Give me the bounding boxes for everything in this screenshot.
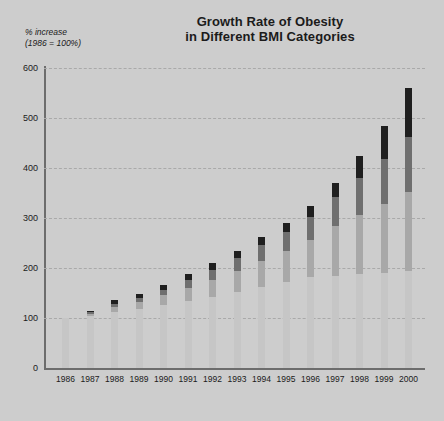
bar-segment-bmi-35-40 (234, 271, 241, 292)
bar-segment-bmi-40-45 (283, 232, 290, 251)
bar-segment-bmi-45- (234, 251, 241, 259)
y-tick-label-600: 600 (8, 64, 38, 73)
bar-segment-bmi-30-35 (136, 309, 143, 368)
bar-segment-bmi-45- (258, 237, 265, 245)
bar-segment-bmi-35-40 (356, 215, 363, 274)
bar-segment-bmi-30-35 (160, 305, 167, 368)
bar-segment-bmi-35-40 (307, 240, 314, 277)
bar-segment-bmi-30-35 (209, 297, 216, 369)
bar-1993 (234, 251, 241, 369)
bar-1988 (111, 300, 118, 369)
bar-segment-bmi-40-45 (307, 217, 314, 240)
y-tick-label-500: 500 (8, 114, 38, 123)
bar-segment-bmi-40-45 (405, 137, 412, 192)
bar-segment-bmi-35-40 (283, 251, 290, 282)
bar-segment-bmi-40-45 (332, 197, 339, 226)
bar-1998 (356, 156, 363, 369)
bar-1996 (307, 206, 314, 368)
chart-title: Growth Rate of Obesity in Different BMI … (150, 14, 390, 44)
y-axis-caption-line-2: (1986 = 100%) (25, 38, 81, 49)
bar-segment-bmi-30-35 (405, 271, 412, 369)
bar-segment-bmi-35-40 (185, 288, 192, 301)
y-axis-caption-line-1: % increase (25, 27, 81, 38)
bar-segment-bmi-30-35 (307, 277, 314, 368)
bar-segment-bmi-30-35 (87, 316, 94, 369)
bar-1989 (136, 294, 143, 369)
bar-segment-bmi-35-40 (405, 192, 412, 271)
bar-segment-bmi-40-45 (356, 178, 363, 216)
bar-segment-bmi-30-35 (332, 276, 339, 369)
bar-segment-bmi-40-45 (234, 258, 241, 271)
x-axis-line (44, 368, 425, 370)
bar-segment-bmi-30-35 (234, 292, 241, 368)
bar-segment-bmi-35-40 (136, 302, 143, 309)
bar-1990 (160, 285, 167, 368)
gridline-500 (44, 118, 425, 119)
chart-title-line-1: Growth Rate of Obesity (150, 14, 390, 29)
bar-segment-bmi-40-45 (209, 270, 216, 280)
y-tick-label-300: 300 (8, 214, 38, 223)
bar-segment-bmi-35-40 (160, 295, 167, 305)
bar-segment-bmi-45- (405, 88, 412, 137)
bar-1995 (283, 223, 290, 368)
bar-segment-bmi-35-40 (381, 204, 388, 273)
bar-1987 (87, 311, 94, 369)
bar-1997 (332, 183, 339, 368)
bar-segment-bmi-30-35 (62, 318, 69, 368)
bar-1992 (209, 263, 216, 368)
bar-2000 (405, 88, 412, 368)
x-tick-label-2000: 2000 (392, 374, 426, 384)
plot-area (44, 68, 425, 368)
gridline-300 (44, 218, 425, 219)
y-tick-label-200: 200 (8, 264, 38, 273)
bar-segment-bmi-35-40 (209, 280, 216, 297)
bar-segment-bmi-30-35 (381, 273, 388, 369)
bar-1991 (185, 274, 192, 368)
bar-segment-bmi-35-40 (258, 261, 265, 287)
chart-title-line-2: in Different BMI Categories (150, 29, 390, 44)
bar-segment-bmi-35-40 (332, 226, 339, 276)
bar-1999 (381, 126, 388, 369)
bar-1986 (62, 318, 69, 368)
bar-segment-bmi-30-35 (185, 301, 192, 368)
bar-segment-bmi-45- (332, 183, 339, 197)
bar-segment-bmi-40-45 (258, 245, 265, 261)
y-tick-label-100: 100 (8, 314, 38, 323)
bar-segment-bmi-45- (307, 206, 314, 217)
bar-segment-bmi-45- (381, 126, 388, 159)
bar-segment-bmi-45- (283, 223, 290, 232)
bar-segment-bmi-45- (356, 156, 363, 178)
bar-segment-bmi-40-45 (185, 280, 192, 288)
bar-segment-bmi-40-45 (381, 159, 388, 204)
y-axis-caption: % increase (1986 = 100%) (25, 27, 81, 49)
y-tick-label-400: 400 (8, 164, 38, 173)
bar-segment-bmi-30-35 (356, 274, 363, 368)
bar-segment-bmi-30-35 (258, 287, 265, 368)
bar-segment-bmi-30-35 (111, 312, 118, 368)
y-tick-label-0: 0 (8, 364, 38, 373)
bar-1994 (258, 237, 265, 368)
gridline-400 (44, 168, 425, 169)
bar-segment-bmi-30-35 (283, 282, 290, 368)
chart-figure: Growth Rate of Obesity in Different BMI … (0, 0, 444, 421)
gridline-600 (44, 68, 425, 69)
